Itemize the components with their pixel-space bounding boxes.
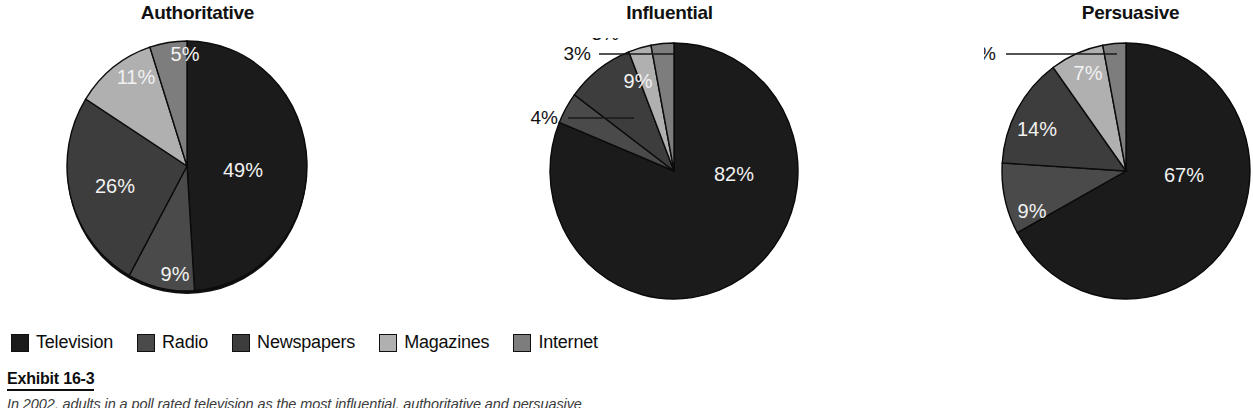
legend-item: Radio [137, 332, 208, 353]
slice-value-label: 7% [1074, 62, 1103, 84]
slice-value-label: 9% [1018, 200, 1047, 222]
legend-label: Internet [538, 332, 597, 353]
slice-value-label: 3% [564, 43, 592, 64]
legend-label: Television [36, 332, 113, 353]
pie-svg-influential: 82%4%9%3%3% [522, 38, 822, 306]
chart-title-persuasive: Persuasive [922, 2, 1253, 24]
chart-title-authoritative: Authoritative [0, 2, 406, 24]
exhibit-label: Exhibit 16-3 [7, 370, 94, 391]
legend-swatch-icon [232, 334, 250, 352]
pie-chart-persuasive: Persuasive 67%9%14%7%3% [836, 0, 1253, 318]
legend-item: Television [11, 332, 113, 353]
legend-item: Magazines [379, 332, 489, 353]
chart-title-influential: Influential [461, 2, 878, 24]
legend-label: Magazines [404, 332, 489, 353]
pie-graphic-persuasive: 67%9%14%7%3% [984, 38, 1253, 306]
slice-value-label: 11% [117, 66, 156, 88]
legend-item: Newspapers [232, 332, 355, 353]
exhibit-figure: Authoritative 49%9%26%11%5% Influential … [0, 0, 1253, 420]
slice-value-label: 3% [592, 38, 620, 44]
legend: TelevisionRadioNewspapersMagazinesIntern… [11, 332, 622, 353]
slice-value-label: 82% [714, 163, 754, 185]
pie-graphic-authoritative: 49%9%26%11%5% [63, 35, 311, 297]
slice-value-label: 26% [95, 175, 135, 197]
slice-value-label: 49% [223, 159, 263, 181]
slice-value-label: 14% [1017, 118, 1057, 140]
pie-slices-influential [550, 43, 798, 299]
slice-value-label: 5% [171, 43, 200, 65]
pie-slices-persuasive [1002, 43, 1250, 299]
pie-slices-authoritative [67, 41, 307, 291]
legend-item: Internet [513, 332, 597, 353]
pie-svg-persuasive: 67%9%14%7%3% [984, 38, 1253, 306]
legend-swatch-icon [379, 334, 397, 352]
legend-swatch-icon [11, 334, 29, 352]
slice-value-label: 4% [531, 107, 559, 128]
slice-value-label: 3% [984, 43, 996, 64]
legend-label: Radio [162, 332, 208, 353]
legend-label: Newspapers [257, 332, 355, 353]
pie-chart-influential: Influential 82%4%9%3%3% [418, 0, 835, 318]
legend-swatch-icon [137, 334, 155, 352]
slice-value-label: 9% [624, 70, 653, 92]
slice-value-label: 67% [1164, 164, 1204, 186]
legend-swatch-icon [513, 334, 531, 352]
slice-value-label: 9% [161, 263, 190, 285]
pie-chart-authoritative: Authoritative 49%9%26%11%5% [0, 0, 417, 318]
pie-graphic-influential: 82%4%9%3%3% [522, 38, 822, 306]
exhibit-caption: In 2002, adults in a poll rated televisi… [7, 396, 1247, 408]
caption-block: Exhibit 16-3 In 2002, adults in a poll r… [7, 370, 1247, 408]
pie-svg-authoritative: 49%9%26%11%5% [63, 35, 311, 297]
